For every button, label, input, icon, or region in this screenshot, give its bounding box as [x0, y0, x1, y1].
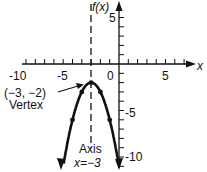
y-axis: [116, 1, 125, 168]
x-axis: [22, 59, 196, 68]
vertex-pointer: [58, 86, 78, 92]
axis-equation: x=−3: [73, 156, 101, 170]
x-tick-label: -5: [57, 69, 68, 83]
y-tick-label: 5: [109, 11, 116, 25]
y-tick-label: -10: [125, 150, 143, 164]
vertex-label: Vertex: [9, 98, 43, 112]
x-axis-label: x: [196, 59, 204, 73]
left-arrowhead: [57, 158, 65, 170]
right-arrowhead: [115, 158, 123, 170]
parabola-chart: -10 -5 0 5 5 -5 -10 x f(x) (−3, −2) Vert…: [0, 0, 207, 172]
y-tick-label: -5: [125, 106, 136, 120]
x-tick-label: -10: [9, 69, 27, 83]
x-tick-label: 0: [107, 69, 114, 83]
axis-label: Axis: [79, 142, 102, 156]
x-tick-label: 5: [162, 69, 169, 83]
y-axis-label: f(x): [92, 0, 109, 14]
